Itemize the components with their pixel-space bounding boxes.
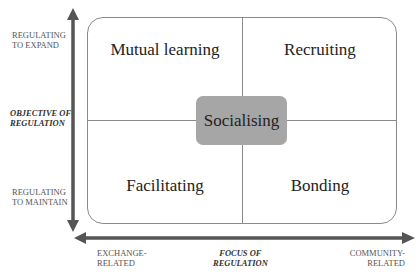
x-title-line1: FOCUS OF — [213, 248, 268, 258]
x-axis-arrow — [74, 232, 415, 244]
quadrant-bonding: Bonding — [245, 176, 395, 196]
x-right-line1: COMMUNITY- — [345, 248, 405, 258]
x-left-label: EXCHANGE- RELATED — [97, 248, 147, 268]
y-axis-title: OBJECTIVE OF REGULATION — [10, 108, 71, 128]
y-bottom-label: REGULATING TO MAINTAIN — [12, 187, 68, 207]
y-title-line2: REGULATION — [10, 118, 71, 128]
quadrant-mutual-learning: Mutual learning — [90, 40, 240, 60]
y-top-label: REGULATING TO EXPAND — [12, 30, 66, 50]
y-title-line1: OBJECTIVE OF — [10, 108, 71, 118]
x-right-line2: RELATED — [345, 258, 405, 268]
x-left-line1: EXCHANGE- — [97, 248, 147, 258]
y-bottom-line1: REGULATING — [12, 187, 68, 197]
x-right-label: COMMUNITY- RELATED — [345, 248, 405, 268]
x-axis-title: FOCUS OF REGULATION — [213, 248, 268, 268]
x-title-line2: REGULATION — [213, 258, 268, 268]
y-top-line2: TO EXPAND — [12, 40, 66, 50]
quadrant-facilitating: Facilitating — [90, 176, 240, 196]
quadrant-recruiting: Recruiting — [245, 40, 395, 60]
center-socialising: Socialising — [196, 96, 287, 145]
y-bottom-line2: TO MAINTAIN — [12, 197, 68, 207]
x-left-line2: RELATED — [97, 258, 147, 268]
center-label: Socialising — [204, 111, 280, 131]
y-top-line1: REGULATING — [12, 30, 66, 40]
